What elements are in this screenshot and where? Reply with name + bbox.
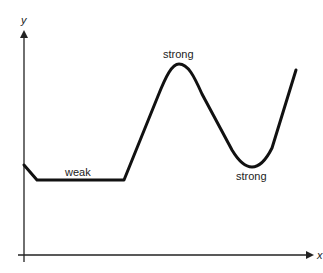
y-axis-label: y bbox=[20, 14, 28, 26]
diagram-canvas: y x weak strong strong bbox=[0, 0, 323, 273]
curve bbox=[24, 64, 296, 180]
diagram: y x weak strong strong bbox=[0, 0, 323, 273]
strong-trough-label: strong bbox=[236, 170, 267, 182]
strong-peak-label: strong bbox=[163, 48, 194, 60]
x-axis-label: x bbox=[316, 249, 323, 261]
weak-label: weak bbox=[64, 166, 91, 178]
